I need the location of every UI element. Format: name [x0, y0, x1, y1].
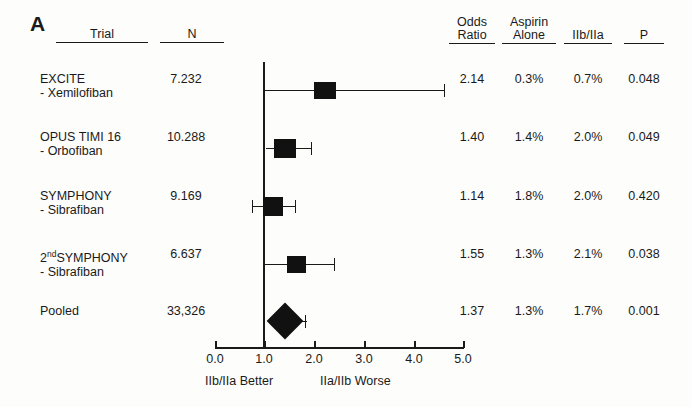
x-axis-label-4: 4.0	[394, 352, 434, 366]
trial-name: OPUS TIMI 16	[40, 130, 121, 144]
odds-ratio-pooled: 1.37	[449, 304, 495, 318]
iibiia-excite: 0.7%	[564, 72, 612, 86]
trial-name-prefix: 2	[40, 251, 47, 265]
p-value-2nd-symphony: 0.038	[620, 247, 668, 261]
trial-drug: - Sibrafiban	[40, 265, 128, 279]
trial-n-excite: 7.232	[148, 72, 224, 86]
reference-line	[263, 62, 265, 347]
trial-name-rest: SYMPHONY	[56, 251, 128, 265]
aspirin-alone-2nd-symphony: 1.3%	[502, 247, 556, 261]
odds-ratio-symphony: 1.14	[449, 189, 495, 203]
trial-label-symphony: SYMPHONY - Sibrafiban	[40, 189, 112, 217]
aspirin-alone-excite: 0.3%	[502, 72, 556, 86]
iibiia-2nd-symphony: 2.1%	[564, 247, 612, 261]
panel-label: A	[30, 12, 45, 36]
x-axis-label-1: 1.0	[244, 352, 284, 366]
ci-cap-upper-2nd-symphony	[334, 258, 335, 271]
column-header-aspirin-alone: Aspirin Alone	[502, 16, 556, 44]
x-axis-tick-0	[215, 341, 217, 348]
trial-label-2nd-symphony: 2ndSYMPHONY - Sibrafiban	[40, 247, 128, 279]
x-axis-label-2: 2.0	[294, 352, 334, 366]
header-rule-odds-ratio	[449, 43, 495, 44]
aspirin-alone-pooled: 1.3%	[502, 304, 556, 318]
column-header-odds-ratio-line1: Odds	[457, 15, 487, 29]
x-axis-label-0: 0.0	[195, 352, 235, 366]
column-header-trial-label: Trial	[90, 27, 114, 41]
x-axis-line	[215, 347, 464, 349]
column-header-n-label: N	[187, 27, 196, 41]
p-value-symphony: 0.420	[620, 189, 668, 203]
column-header-odds-ratio-line2: Ratio	[457, 28, 486, 42]
iibiia-pooled: 1.7%	[564, 304, 612, 318]
trial-n-2nd-symphony: 6.637	[148, 247, 224, 261]
ci-line-pooled	[285, 321, 307, 322]
header-rule-iibiia	[564, 43, 612, 44]
aspirin-alone-opus-timi-16: 1.4%	[502, 130, 556, 144]
x-axis-label-3: 3.0	[344, 352, 384, 366]
x-axis-tick-5	[463, 341, 465, 348]
forest-plot-figure: A Trial N Odds Ratio Aspirin Alone IIb/I…	[0, 0, 692, 407]
ci-cap-upper-opus-timi-16	[311, 142, 312, 155]
header-rule-p	[624, 43, 664, 44]
x-axis-tick-2	[314, 341, 316, 348]
estimate-marker-2nd-symphony	[287, 256, 306, 273]
aspirin-alone-symphony: 1.8%	[502, 189, 556, 203]
trial-name: Pooled	[40, 304, 79, 318]
trial-drug: - Orbofiban	[40, 144, 121, 158]
column-header-aspirin-line1: Aspirin	[510, 15, 548, 29]
ci-cap-upper-symphony	[295, 200, 296, 213]
ci-line-symphony	[253, 206, 296, 207]
ci-cap-upper-pooled	[305, 315, 306, 328]
x-axis-right-direction-label: IIa/IIb Worse	[320, 374, 391, 388]
column-header-aspirin-line2: Alone	[513, 28, 545, 42]
p-value-excite: 0.048	[620, 72, 668, 86]
estimate-marker-opus-timi-16	[274, 139, 296, 158]
iibiia-symphony: 2.0%	[564, 189, 612, 203]
column-header-trial: Trial	[56, 28, 148, 43]
x-axis-label-5: 5.0	[443, 352, 483, 366]
x-axis-left-direction-label: IIb/IIa Better	[205, 374, 273, 388]
trial-name-superscript: nd	[47, 249, 56, 259]
column-header-iibiia-label: IIb/IIa	[572, 28, 603, 42]
iibiia-opus-timi-16: 2.0%	[564, 130, 612, 144]
trial-drug: - Sibrafiban	[40, 203, 112, 217]
ci-cap-upper-excite	[444, 84, 445, 97]
estimate-marker-symphony	[263, 197, 283, 216]
ci-line-opus-timi-16	[266, 148, 312, 149]
column-header-odds-ratio: Odds Ratio	[449, 16, 495, 44]
p-value-pooled: 0.001	[620, 304, 668, 318]
x-axis-tick-4	[414, 341, 416, 348]
column-header-n: N	[160, 28, 224, 43]
header-rule-trial	[56, 42, 148, 43]
trial-name: EXCITE	[40, 72, 113, 86]
column-header-p: P	[624, 29, 664, 44]
header-rule-n	[160, 42, 224, 43]
odds-ratio-2nd-symphony: 1.55	[449, 247, 495, 261]
trial-drug: - Xemilofiban	[40, 86, 113, 100]
trial-n-symphony: 9.169	[148, 189, 224, 203]
trial-name: 2ndSYMPHONY	[40, 247, 128, 265]
trial-name: SYMPHONY	[40, 189, 112, 203]
odds-ratio-opus-timi-16: 1.40	[449, 130, 495, 144]
trial-label-pooled: Pooled	[40, 304, 79, 318]
header-rule-aspirin	[502, 43, 556, 44]
ci-line-2nd-symphony	[263, 264, 335, 265]
trial-label-opus-timi-16: OPUS TIMI 16 - Orbofiban	[40, 130, 121, 158]
ci-line-excite	[263, 90, 445, 91]
x-axis-tick-1	[264, 341, 266, 348]
column-header-iibiia: IIb/IIa	[564, 29, 612, 44]
odds-ratio-excite: 2.14	[449, 72, 495, 86]
estimate-marker-excite	[314, 82, 336, 99]
p-value-opus-timi-16: 0.049	[620, 130, 668, 144]
x-axis-tick-3	[364, 341, 366, 348]
ci-cap-lower-symphony	[252, 200, 253, 213]
estimate-marker-pooled	[267, 303, 304, 340]
trial-n-pooled: 33,326	[148, 304, 224, 318]
trial-label-excite: EXCITE - Xemilofiban	[40, 72, 113, 100]
trial-n-opus-timi-16: 10.288	[148, 130, 224, 144]
column-header-p-label: P	[640, 28, 648, 42]
